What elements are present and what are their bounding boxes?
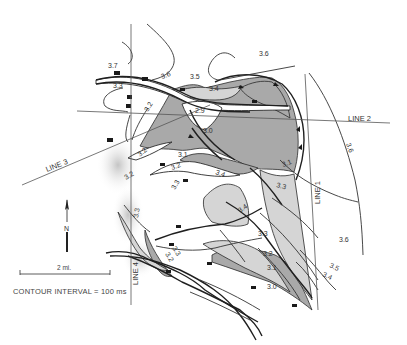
contour-label: 3.3 bbox=[170, 178, 181, 190]
contour-label: 3.1 bbox=[267, 264, 277, 271]
contour-label: 3.3 bbox=[258, 230, 268, 237]
north-label: N bbox=[64, 225, 69, 232]
contour-label: 3.4 bbox=[209, 85, 219, 92]
contour-label: 3.1 bbox=[178, 151, 188, 158]
north-arrow: N bbox=[64, 199, 69, 252]
contour-label: 3.6 bbox=[339, 236, 349, 243]
contour-label: 3.4 bbox=[322, 271, 334, 282]
contour-label: 3.2 bbox=[263, 250, 273, 257]
line-1-label: LINE 1 bbox=[313, 181, 322, 204]
scale-bar-label: 2 mi. bbox=[57, 264, 71, 271]
contour-label: 3.5 bbox=[190, 73, 200, 80]
contour-label: 3.6 bbox=[259, 50, 269, 57]
line-3-label: LINE 3 bbox=[44, 157, 69, 174]
contour-interval-legend: CONTOUR INTERVAL = 100 ms bbox=[13, 287, 127, 296]
contour-label: 3.3 bbox=[113, 82, 123, 89]
contour-label: 3.7 bbox=[108, 62, 118, 69]
contour-label: 3.6 bbox=[345, 142, 355, 154]
contour-label: 3.2 bbox=[143, 100, 154, 112]
line-2-label: LINE 2 bbox=[348, 114, 371, 123]
contour-label: 2.9 bbox=[195, 107, 205, 114]
contour-label: 3.0 bbox=[203, 127, 213, 134]
line-4-label: LINE 4 bbox=[131, 262, 140, 285]
contour-label: 3.5 bbox=[329, 262, 341, 273]
contour-label: 3.2 bbox=[164, 251, 175, 263]
contour-label: 3.0 bbox=[267, 283, 277, 290]
